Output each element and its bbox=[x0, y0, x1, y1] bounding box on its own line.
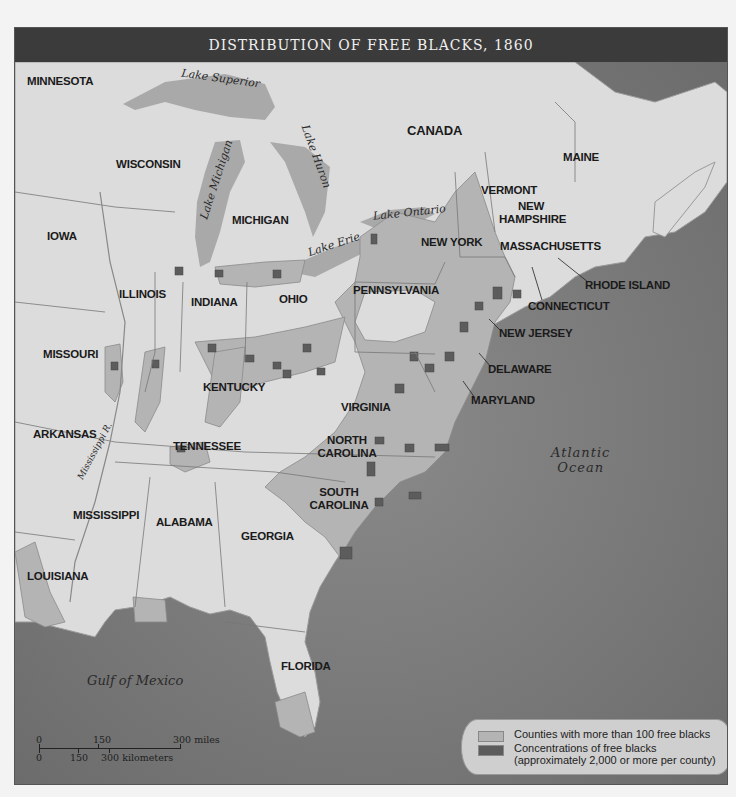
map-title: DISTRIBUTION OF FREE BLACKS, 1860 bbox=[15, 28, 727, 62]
map-legend: Counties with more than 100 free blacks … bbox=[461, 719, 728, 775]
legend-concentrations-subtext: (approximately 2,000 or more per county) bbox=[514, 754, 716, 766]
ocean-text: Ocean bbox=[551, 460, 610, 475]
scale-tick bbox=[180, 744, 181, 749]
scale-bar: 0 150 300 miles 0 150 300 kilometers bbox=[25, 734, 225, 770]
label-leader-lines bbox=[15, 28, 727, 784]
atlantic-ocean-label: Atlantic Ocean bbox=[551, 445, 610, 475]
legend-swatch-dark bbox=[478, 745, 504, 756]
scale-tick bbox=[98, 744, 99, 749]
legend-label-concentrations: Concentrations of free blacks (approxima… bbox=[514, 742, 716, 766]
scale-miles-150: 150 bbox=[93, 734, 111, 745]
scale-km-300: 300 kilometers bbox=[101, 752, 173, 763]
scale-km-0: 0 bbox=[36, 752, 42, 763]
scale-km-150: 150 bbox=[70, 752, 88, 763]
legend-label-counties: Counties with more than 100 free blacks bbox=[514, 728, 710, 740]
atlantic-text: Atlantic bbox=[551, 445, 610, 460]
legend-concentrations-text: Concentrations of free blacks bbox=[514, 742, 716, 754]
legend-item-counties: Counties with more than 100 free blacks bbox=[478, 728, 710, 742]
scale-line bbox=[39, 748, 181, 749]
legend-item-concentrations: Concentrations of free blacks (approxima… bbox=[478, 742, 716, 766]
map-frame: DISTRIBUTION OF FREE BLACKS, 1860 bbox=[14, 27, 728, 785]
gulf-of-mexico-label: Gulf of Mexico bbox=[87, 673, 183, 688]
legend-swatch-light bbox=[478, 731, 504, 742]
